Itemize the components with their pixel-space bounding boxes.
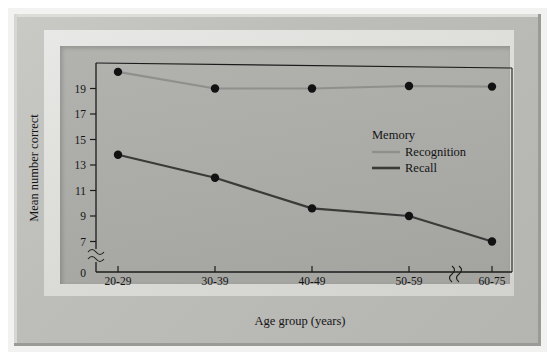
recognition-point-40-49	[308, 84, 316, 92]
recall-point-50-59	[405, 212, 413, 220]
recognition-point-50-59	[405, 82, 413, 90]
y-tick-label-17: 17	[75, 108, 87, 120]
y-tick-label-13: 13	[75, 159, 87, 171]
figure-root: 19 17 15 13 11 9 7 0 20-29 30-39 40-49	[0, 0, 555, 360]
recognition-point-20-29	[114, 68, 122, 76]
y-axis-break-icon	[88, 250, 104, 262]
x-tick-label-30-39: 30-39	[202, 275, 229, 287]
legend-label-recognition: Recognition	[405, 145, 467, 159]
recognition-point-60-75	[488, 82, 496, 90]
x-tick-label-50-59: 50-59	[396, 275, 423, 287]
legend-title: Memory	[372, 128, 416, 142]
x-axis-break-icon	[450, 266, 462, 282]
recognition-point-30-39	[211, 84, 219, 92]
y-tick-label-0: 0	[80, 267, 86, 279]
recognition-line	[118, 72, 492, 89]
y-tick-label-11: 11	[75, 185, 86, 197]
recall-point-40-49	[308, 204, 316, 212]
x-tick-label-40-49: 40-49	[299, 275, 326, 287]
x-tick-label-60-75: 60-75	[479, 275, 506, 287]
line-chart: 19 17 15 13 11 9 7 0 20-29 30-39 40-49	[0, 0, 555, 360]
x-axis-ticks	[118, 266, 492, 272]
series-recall	[114, 151, 496, 246]
plot-frame	[96, 63, 512, 272]
y-axis-tick-labels: 19 17 15 13 11 9 7 0	[75, 83, 87, 279]
y-tick-label-7: 7	[80, 236, 86, 248]
y-tick-label-9: 9	[80, 210, 86, 222]
y-axis-title: Mean number correct	[27, 114, 41, 222]
series-recognition	[114, 68, 496, 93]
legend-label-recall: Recall	[405, 161, 437, 175]
recall-point-30-39	[211, 174, 219, 182]
recall-point-60-75	[488, 237, 496, 245]
y-tick-label-19: 19	[75, 83, 87, 95]
y-axis-ticks	[90, 89, 96, 242]
x-tick-label-20-29: 20-29	[105, 275, 132, 287]
x-axis-title: Age group (years)	[255, 314, 346, 328]
recall-point-20-29	[114, 151, 122, 159]
legend: Memory Recognition Recall	[372, 128, 467, 175]
x-axis-tick-labels: 20-29 30-39 40-49 50-59 60-75	[105, 275, 506, 287]
y-tick-label-15: 15	[75, 134, 87, 146]
